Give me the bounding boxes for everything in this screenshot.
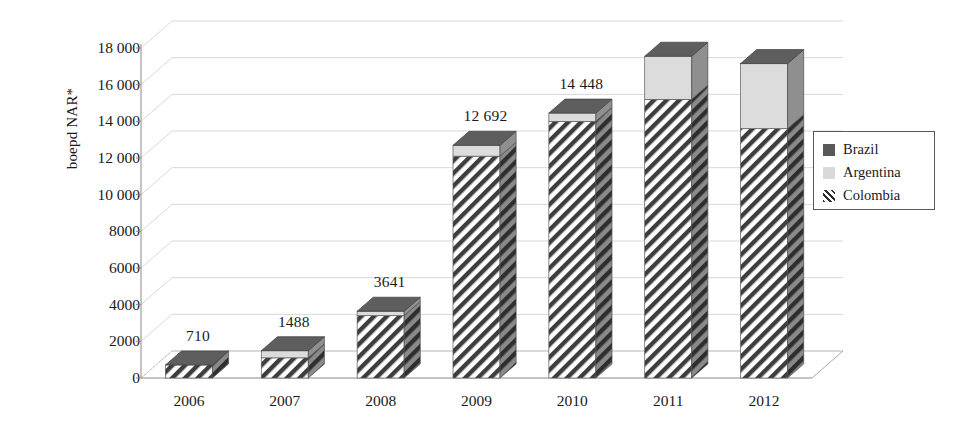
bar-column (549, 99, 612, 378)
legend-item[interactable]: Colombia (823, 184, 934, 207)
bar-column (261, 337, 324, 378)
x-axis-tick-label: 2006 (144, 392, 234, 410)
x-axis-tick-label: 2012 (719, 392, 809, 410)
x-axis-tick-label: 2009 (432, 392, 522, 410)
bar-column (741, 50, 804, 378)
x-axis-tick-label: 2007 (240, 392, 330, 410)
dark-gray-swatch (823, 144, 835, 156)
x-axis-tick-label: 2008 (336, 392, 426, 410)
bar-data-label: 1488 (239, 313, 349, 331)
bar-column (645, 42, 708, 378)
bar-data-label: 3641 (335, 273, 445, 291)
legend-box: BrazilArgentinaColombia (813, 131, 935, 210)
bar-column (357, 297, 420, 378)
legend-item-label: Colombia (843, 188, 900, 203)
x-axis-tick-label: 2011 (623, 392, 713, 410)
x-axis-tick-label: 2010 (527, 392, 617, 410)
legend-item-label: Argentina (843, 165, 901, 180)
light-gray-swatch (823, 167, 835, 179)
legend-item[interactable]: Brazil (823, 138, 934, 161)
chart-container: boepd NAR* 0200040006000800010 00012 000… (0, 0, 972, 431)
legend-item[interactable]: Argentina (823, 161, 934, 184)
hatched-swatch (823, 190, 835, 202)
bar-data-label: 14 448 (526, 75, 636, 93)
bar-column (165, 351, 228, 378)
bar-data-label: 12 692 (431, 107, 541, 125)
bar-column (453, 131, 516, 378)
plot-area (0, 0, 972, 431)
legend-item-label: Brazil (843, 142, 878, 157)
bar-data-label: 710 (143, 327, 253, 345)
